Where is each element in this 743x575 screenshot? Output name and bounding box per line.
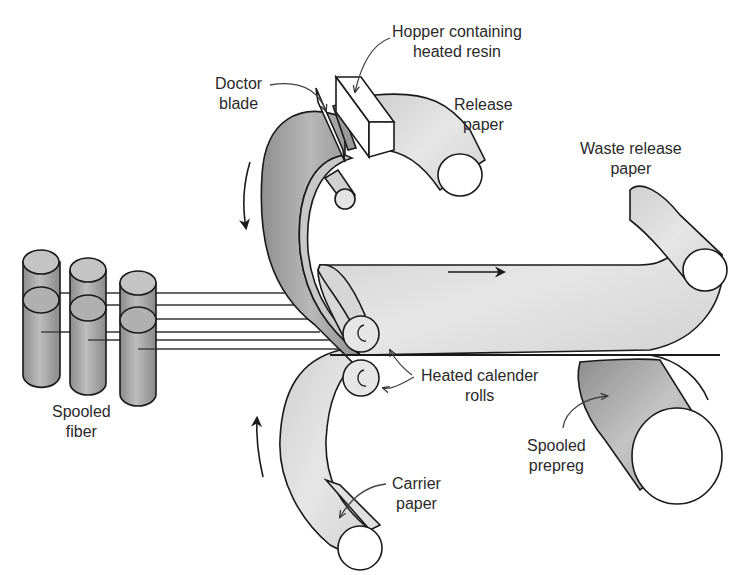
label-heated-calender-rolls: Heated calender rolls — [421, 366, 538, 406]
prepreg-process-diagram — [0, 0, 743, 575]
fiber-spool-3 — [120, 271, 156, 406]
label-release-paper: Release paper — [454, 95, 513, 135]
waste-release-paper-label-line2: paper — [580, 159, 682, 179]
label-spooled-prepreg: Spooled prepreg — [527, 436, 586, 476]
label-hopper: Hopper containing heated resin — [392, 22, 522, 62]
fiber-spool-2 — [70, 258, 106, 395]
doctor-blade-label-line1: Doctor — [215, 74, 262, 94]
heated-calender-rolls-label-line1: Heated calender — [421, 366, 538, 386]
spooled-prepreg-label-line1: Spooled — [527, 436, 586, 456]
label-waste-release-paper: Waste release paper — [580, 139, 682, 179]
carrier-paper-label-line2: paper — [392, 494, 441, 514]
prepreg-sheet — [318, 186, 727, 355]
heated-calender-rolls-label-line2: rolls — [421, 386, 538, 406]
spooled-fiber-label-line2: fiber — [52, 422, 111, 442]
label-doctor-blade: Doctor blade — [215, 74, 262, 114]
guide-roll-small — [325, 170, 355, 209]
label-carrier-paper: Carrier paper — [392, 474, 441, 514]
waste-release-paper-label-line1: Waste release — [580, 139, 682, 159]
hopper-label-line2: heated resin — [392, 42, 522, 62]
hopper-label-line1: Hopper containing — [392, 22, 522, 42]
calender-lower-leader — [383, 377, 414, 388]
upper-calender-roll — [343, 316, 379, 352]
doctor-blade-label-line2: blade — [215, 94, 262, 114]
fiber-spool-1 — [23, 250, 60, 387]
label-spooled-fiber: Spooled fiber — [52, 402, 111, 442]
spooled-fiber-label-line1: Spooled — [52, 402, 111, 422]
release-paper-label-line2: paper — [454, 115, 513, 135]
lower-calender-roll — [343, 360, 379, 396]
doctor-blade-leader — [270, 84, 326, 111]
waste-release-paper-roll-end — [683, 249, 727, 291]
spooled-fiber-spools — [23, 250, 156, 406]
release-paper-label-line1: Release — [454, 95, 513, 115]
release-paper-down-arrow — [244, 162, 250, 228]
carrier-paper-label-line1: Carrier — [392, 474, 441, 494]
carrier-paper-up-arrow — [257, 418, 263, 477]
spooled-prepreg-label-line2: prepreg — [527, 456, 586, 476]
